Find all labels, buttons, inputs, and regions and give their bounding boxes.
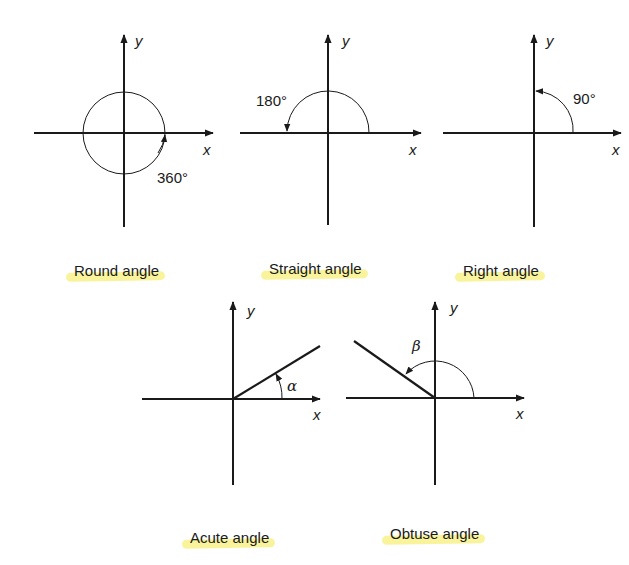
caption-obtuse-angle: Obtuse angle — [390, 525, 479, 542]
obtuse-angle-panel: y x β — [346, 299, 524, 485]
y-axis-label: y — [449, 299, 459, 316]
angle-ray — [233, 346, 320, 399]
caption-acute-angle: Acute angle — [190, 529, 269, 546]
x-axis-label: x — [408, 141, 417, 158]
rotation-arrow-icon — [536, 91, 573, 133]
angle-value-label: 90° — [573, 90, 596, 107]
acute-angle-panel: y x α — [142, 302, 321, 485]
beta-label: β — [411, 337, 421, 355]
angle-value-label: 180° — [256, 92, 287, 109]
x-axis-label: x — [202, 141, 211, 158]
round-angle-panel: y x 360° — [34, 32, 213, 227]
alpha-label: α — [287, 377, 297, 395]
caption-round-angle: Round angle — [74, 262, 159, 279]
angle-value-label: 360° — [157, 169, 188, 186]
x-axis-label: x — [515, 405, 524, 422]
rotation-arrow-icon — [276, 374, 282, 399]
right-angle-panel: y x 90° — [443, 32, 621, 227]
y-axis-label: y — [246, 302, 256, 319]
x-axis-label: x — [312, 406, 321, 423]
y-axis-label: y — [545, 32, 555, 49]
caption-straight-angle: Straight angle — [269, 260, 362, 277]
y-axis-label: y — [341, 32, 351, 49]
x-axis-label: x — [611, 141, 620, 158]
caption-right-angle: Right angle — [463, 262, 539, 279]
y-axis-label: y — [134, 32, 144, 49]
rotation-arrow-icon — [406, 361, 474, 398]
straight-angle-panel: y x 180° — [240, 32, 421, 225]
angles-diagram: y x 360° y x 180° y x 90° y x α y x — [0, 0, 629, 565]
angle-ray — [354, 341, 435, 398]
